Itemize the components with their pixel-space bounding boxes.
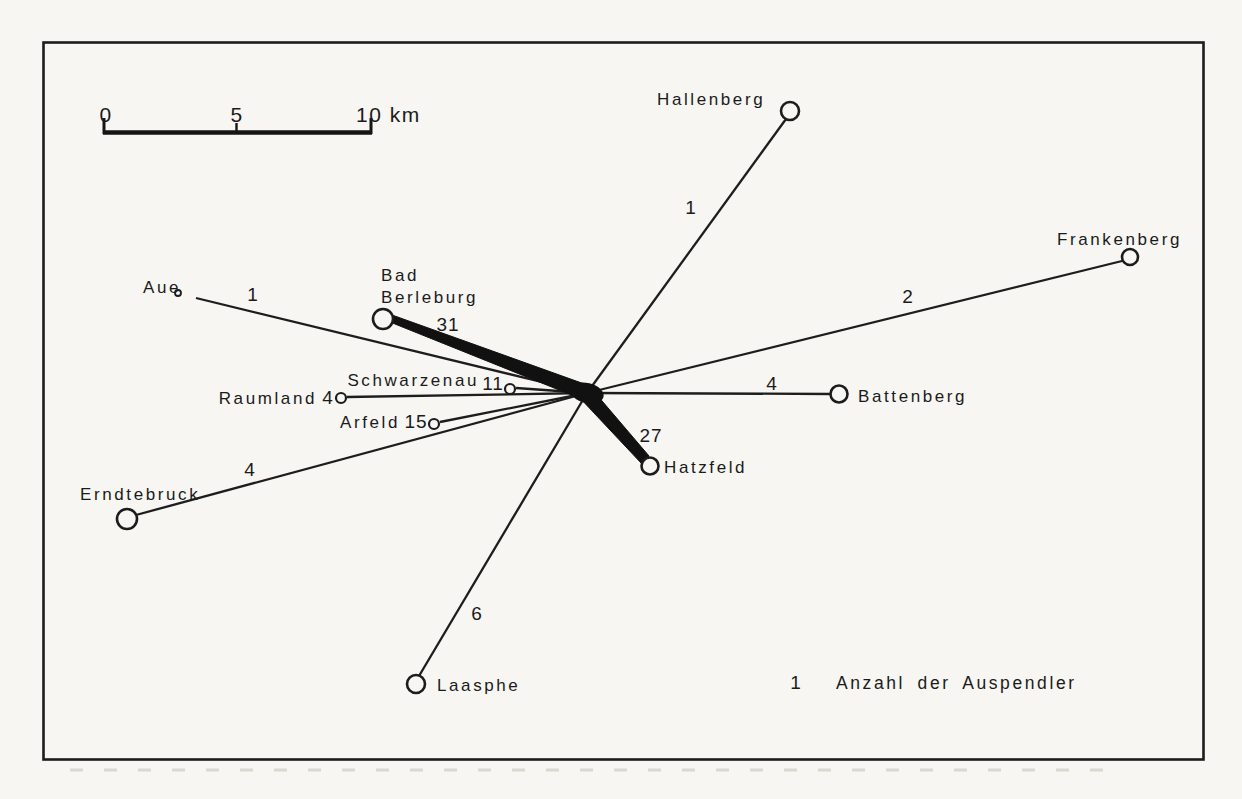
- town-label-berleburg: Berleburg: [381, 288, 478, 307]
- town-label-raumland: Raumland: [219, 389, 317, 408]
- commuter-flow-map: 0 5 10 km: [0, 0, 1242, 799]
- town-label-laasphe: Laasphe: [437, 676, 520, 695]
- flow-value-laasphe: 6: [471, 603, 483, 624]
- flow-line-erndtebruck: [136, 393, 587, 515]
- map-frame-border: [44, 43, 1204, 760]
- town-node-hatzfeld: [642, 458, 659, 475]
- town-node-hallenberg: [781, 102, 799, 120]
- flow-value-hallenberg: 1: [685, 197, 697, 218]
- town-label-battenberg: Battenberg: [858, 387, 967, 406]
- flow-value-arfeld: 15: [404, 411, 427, 432]
- flow-line-laasphe: [419, 393, 587, 676]
- town-node-frankenberg: [1122, 249, 1138, 265]
- legend-sample-value: 1: [790, 672, 802, 693]
- scale-label-0: 0: [99, 103, 112, 126]
- town-node-raumland: [336, 393, 346, 403]
- flow-value-aue: 1: [247, 284, 259, 305]
- town-node-erndtebruck: [117, 509, 137, 529]
- flow-line-arfeld: [440, 393, 587, 422]
- town-label-frankenberg: Frankenberg: [1057, 230, 1182, 249]
- town-node-bad-berleburg: [373, 309, 393, 329]
- scanned-figure-page: 0 5 10 km: [0, 0, 1242, 799]
- town-label-bad: Bad: [381, 266, 419, 285]
- town-label-aue: Aue: [143, 278, 181, 297]
- town-label-schwarzenau: Schwarzenau: [347, 371, 479, 390]
- scale-label-10km: 10 km: [356, 103, 421, 126]
- legend: 1 Anzahl der Auspendler: [790, 672, 1076, 693]
- town-node-laasphe: [407, 675, 425, 693]
- scale-label-5: 5: [230, 103, 243, 126]
- flow-value-battenberg: 4: [766, 373, 778, 394]
- flow-value-raumland: 4: [322, 387, 334, 408]
- flow-value-hatzfeld: 27: [639, 425, 662, 446]
- town-node-battenberg: [831, 386, 848, 403]
- scale-bar: 0 5 10 km: [99, 103, 420, 134]
- town-label-hatzfeld: Hatzfeld: [664, 458, 747, 477]
- flow-value-frankenberg: 2: [902, 286, 914, 307]
- flow-line-raumland: [347, 393, 587, 397]
- town-label-erndtebruck: Erndtebruck: [80, 485, 200, 504]
- flow-line-battenberg: [587, 393, 830, 394]
- flow-value-erndtebruck: 4: [244, 459, 256, 480]
- town-node-schwarzenau: [505, 384, 515, 394]
- town-label-arfeld: Arfeld: [340, 413, 400, 432]
- flow-values: 1 2 4 27 31 1 11 4 15 4 6: [244, 197, 914, 624]
- legend-label: Anzahl der Auspendler: [836, 673, 1077, 693]
- flow-value-bad-berleburg: 31: [436, 314, 459, 335]
- town-label-hallenberg: Hallenberg: [657, 90, 765, 109]
- town-node-arfeld: [429, 419, 439, 429]
- flow-value-schwarzenau: 11: [482, 373, 504, 394]
